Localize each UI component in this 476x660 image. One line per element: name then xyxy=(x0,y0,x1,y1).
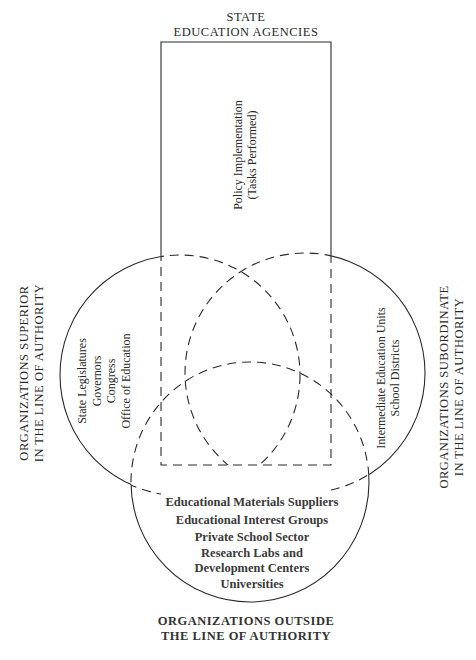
list-item: Private School Sector xyxy=(140,530,364,546)
left-circle-items: State Legislatures Governors Congress Of… xyxy=(75,326,133,436)
bottom-circle-items: Educational Materials Suppliers Educatio… xyxy=(140,495,364,592)
label-line: ORGANIZATIONS SUPERIOR xyxy=(17,273,32,473)
list-item: Educational Materials Suppliers xyxy=(140,495,364,511)
list-item: Intermediate Education Units xyxy=(374,298,388,458)
label-line: ORGANIZATIONS OUTSIDE xyxy=(146,614,346,629)
list-item: State Legislatures xyxy=(75,326,90,436)
right-circle-items: Intermediate Education Units School Dist… xyxy=(374,298,404,458)
list-item: School Districts xyxy=(388,298,402,458)
list-item: Educational Interest Groups xyxy=(140,513,364,529)
label-line: ORGANIZATIONS SUBORDINATE xyxy=(437,282,452,492)
label-line: STATE xyxy=(146,10,346,25)
label-line: THE LINE OF AUTHORITY xyxy=(146,629,346,644)
label-line: (Tasks Performed) xyxy=(245,85,259,225)
label-organizations-subordinate: ORGANIZATIONS SUBORDINATE IN THE LINE OF… xyxy=(437,282,467,492)
list-item: Development Centers xyxy=(140,561,364,577)
label-organizations-outside: ORGANIZATIONS OUTSIDE THE LINE OF AUTHOR… xyxy=(146,614,346,644)
label-state-education-agencies: STATE EDUCATION AGENCIES xyxy=(146,10,346,40)
list-item: Research Labs and xyxy=(140,546,364,562)
label-line: IN THE LINE OF AUTHORITY xyxy=(452,282,467,492)
list-item: Office of Education xyxy=(119,326,134,436)
label-organizations-superior: ORGANIZATIONS SUPERIOR IN THE LINE OF AU… xyxy=(17,273,47,473)
list-item: Congress xyxy=(104,326,119,436)
list-item: Universities xyxy=(140,577,364,593)
label-line: IN THE LINE OF AUTHORITY xyxy=(32,273,47,473)
label-line: EDUCATION AGENCIES xyxy=(146,25,346,40)
label-policy-implementation: Policy Implementation (Tasks Performed) xyxy=(231,85,261,225)
list-item: Governors xyxy=(90,326,105,436)
label-line: Policy Implementation xyxy=(231,85,245,225)
